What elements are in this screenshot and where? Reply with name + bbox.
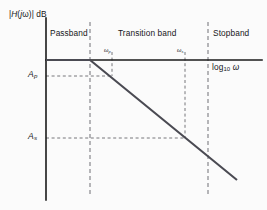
omega-p-label: ωp [104,48,111,54]
a-p-label: Ap [28,70,37,80]
x-axis-label: log10 ω [212,63,239,73]
filter-specification-figure: |H(jω)| dB log10 ω Passband Transition b… [0,0,267,210]
y-axis-label: |H(jω)| dB [9,10,47,18]
a-s-label: As [28,132,37,142]
band-label-transition-band: Transition band [118,29,176,37]
omega-s-label: ωs [177,48,184,54]
band-label-passband: Passband [50,29,88,37]
band-label-stopband: Stopband [213,29,249,37]
